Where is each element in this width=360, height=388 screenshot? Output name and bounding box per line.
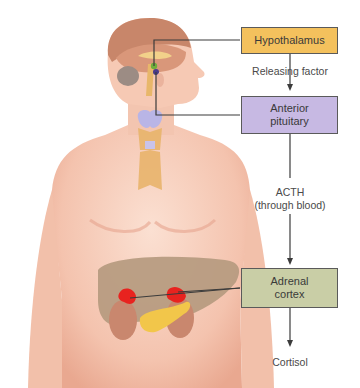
adrenal-cortex-label-line1: Adrenal xyxy=(271,275,309,288)
hypothalamus-box: Hypothalamus xyxy=(241,27,338,54)
cerebellum-icon xyxy=(117,66,139,86)
anterior-pituitary-box: Anterior pituitary xyxy=(241,96,338,134)
adrenal-cortex-box: Adrenal cortex xyxy=(241,268,338,308)
anterior-pituitary-label-line1: Anterior xyxy=(270,102,309,115)
releasing-factor-label: Releasing factor xyxy=(240,65,340,78)
hpa-axis-diagram: Hypothalamus Releasing factor Anterior p… xyxy=(0,0,360,388)
acth-label: ACTH xyxy=(240,186,340,199)
anterior-pituitary-label-line2: pituitary xyxy=(270,115,309,128)
kidney-left-icon xyxy=(109,300,137,340)
hypothalamus-label: Hypothalamus xyxy=(254,34,324,47)
cortisol-label: Cortisol xyxy=(240,356,340,369)
acth-through-blood-label: (through blood) xyxy=(240,199,340,212)
thyroid-icon xyxy=(138,110,163,190)
adrenal-cortex-label-line2: cortex xyxy=(275,288,305,301)
